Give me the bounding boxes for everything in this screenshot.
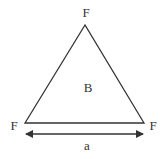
vertex-label-bottom-right: F [149,118,156,133]
center-label: B [84,80,93,95]
side-length-label: a [84,138,90,153]
triangle-diagram: F F F B a [0,0,164,159]
vertex-label-bottom-left: F [10,118,17,133]
vertex-label-top: F [82,5,89,20]
triangle [25,25,144,123]
